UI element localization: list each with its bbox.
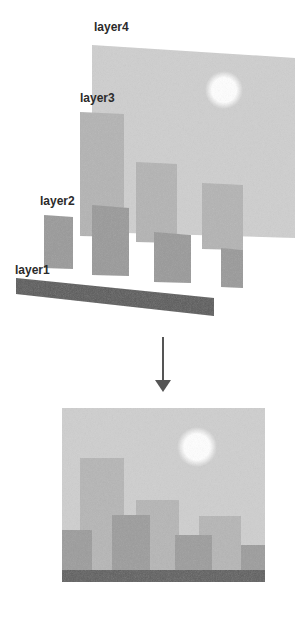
exploded-view (16, 45, 295, 316)
diagram-canvas (0, 0, 303, 619)
composite-view (62, 408, 265, 582)
layer1-ground-strip (16, 278, 214, 316)
composite-ground (62, 570, 265, 582)
arrow-down-icon (155, 337, 171, 392)
layer3-label: layer3 (80, 92, 115, 104)
composite-near-building (112, 515, 150, 576)
composite-near-building (62, 530, 92, 576)
sun-icon (205, 71, 243, 109)
composite-sun-icon (177, 427, 217, 467)
layer1-label: layer1 (15, 264, 50, 276)
layer-composition-diagram: layer4 layer3 layer2 layer1 (0, 0, 303, 619)
layer2-label: layer2 (40, 195, 75, 207)
composite-near-building (175, 535, 212, 576)
layer4-label: layer4 (94, 21, 129, 33)
